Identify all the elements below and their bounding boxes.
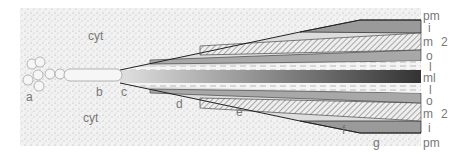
cyt-label-bottom: cyt — [83, 112, 98, 124]
stage-c-label: c — [121, 86, 127, 98]
cyt-label-top: cyt — [88, 30, 103, 42]
layer-i-bottom: i — [428, 122, 431, 134]
stage-f-label: f — [342, 124, 345, 136]
layer-o-bottom: o — [426, 95, 433, 107]
bracket-2-bottom: 2 — [441, 108, 448, 120]
stage-a-label: a — [26, 91, 33, 103]
stage-e-label: e — [236, 106, 243, 118]
layer-pm-bottom: pm — [423, 137, 440, 149]
stage-b-label: b — [96, 86, 103, 98]
bracket-2-top: 2 — [441, 36, 448, 48]
cell-wall-formation-diagram: cyt cyt a b c d e f g pm i m 2 o l ml l … — [0, 0, 462, 154]
stage-d-label: d — [176, 98, 183, 110]
layer-pm-top: pm — [423, 10, 440, 22]
stage-g-label: g — [373, 137, 380, 149]
layer-i-top: i — [428, 22, 431, 34]
layer-m-bottom: m — [423, 108, 433, 120]
layer-m-top: m — [423, 36, 433, 48]
diagram-canvas — [0, 0, 462, 154]
